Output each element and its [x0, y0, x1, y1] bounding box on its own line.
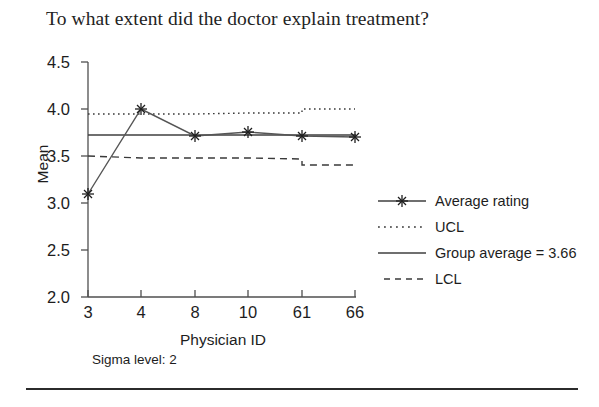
x-tick-label-4: 4: [121, 303, 161, 322]
solid-line-key-icon: [378, 245, 426, 261]
dotted-line-key-icon: [378, 219, 426, 235]
chart-legend: Average rating UCL Group average = 3.66 …: [378, 190, 593, 294]
legend-label-ucl: UCL: [435, 219, 464, 235]
series-average-rating-line: [88, 109, 355, 194]
series-lcl-line: [88, 156, 355, 165]
legend-item-lcl[interactable]: LCL: [378, 268, 593, 290]
footer-divider: [26, 388, 578, 390]
legend-label-group-average: Group average = 3.66: [435, 245, 576, 261]
sigma-level-note: Sigma level: 2: [92, 352, 177, 367]
x-tick-label-61: 61: [282, 303, 322, 322]
y-axis-title: Mean: [34, 119, 52, 209]
legend-item-group-average[interactable]: Group average = 3.66: [378, 242, 593, 264]
y-tick-label-2-0: 2.0: [24, 288, 70, 307]
series-average-rating-markers: [82, 103, 361, 200]
x-tick-label-8: 8: [175, 303, 215, 322]
dashed-line-key-icon: [378, 271, 426, 287]
legend-item-ucl[interactable]: UCL: [378, 216, 593, 238]
y-tick-label-4-0: 4.0: [24, 100, 70, 119]
y-tick-label-4-5: 4.5: [24, 53, 70, 72]
y-tick-marks: [81, 62, 88, 297]
x-tick-label-10: 10: [228, 303, 268, 322]
solid-star-line-key-icon: [378, 193, 426, 209]
legend-label-lcl: LCL: [435, 271, 462, 287]
x-axis-title: Physician ID: [148, 331, 298, 349]
legend-item-average-rating[interactable]: Average rating: [378, 190, 593, 212]
x-tick-label-3: 3: [68, 303, 108, 322]
legend-label-average-rating: Average rating: [435, 193, 529, 209]
x-tick-marks: [88, 290, 355, 297]
y-tick-label-2-5: 2.5: [24, 241, 70, 260]
series-ucl-line: [88, 109, 355, 114]
x-tick-label-66: 66: [335, 303, 375, 322]
